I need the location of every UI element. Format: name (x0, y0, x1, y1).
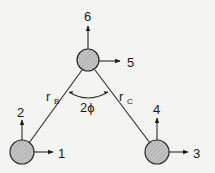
dof-label-6: 6 (84, 9, 91, 24)
link-label-rb: r (46, 89, 51, 104)
mass-bottom-left (10, 140, 34, 164)
link-rc (95, 70, 150, 143)
angle-arc (69, 92, 108, 98)
link-rb (29, 70, 82, 143)
dof-label-2: 2 (17, 105, 24, 120)
link-subscript-rb: B (54, 97, 59, 106)
dof-label-3: 3 (193, 146, 200, 161)
dof-label-4: 4 (153, 102, 160, 117)
angle-label: 2ϕ (80, 100, 95, 115)
mass-top (77, 49, 99, 71)
link-subscript-rc: C (127, 97, 133, 106)
mass-bottom-right (145, 140, 169, 164)
dof-label-1: 1 (58, 146, 65, 161)
diagram-canvas: 6 5 2 1 4 3 r B r C 2ϕ (0, 0, 215, 173)
link-label-rc: r (119, 89, 124, 104)
dof-label-5: 5 (127, 55, 134, 70)
